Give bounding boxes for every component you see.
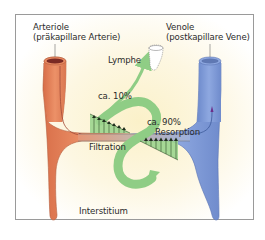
lymph-vessel-icon [149,45,163,70]
arteriole-label: Arteriole [33,22,69,32]
venule-label: Venole [166,22,194,32]
venule-sublabel: (postkapillare Vene) [166,32,250,42]
arteriole-sublabel: (präkapillare Arterie) [33,32,120,42]
filtration-label: Filtration [89,142,126,152]
reabsorb-percent-label: ca. 90% [147,117,181,127]
lymph-percent-label: ca. 10% [98,91,132,101]
interstitium-label: Interstitium [79,206,128,216]
resorption-label: Resorption [155,127,200,137]
lymph-label: Lymphe [108,55,141,65]
